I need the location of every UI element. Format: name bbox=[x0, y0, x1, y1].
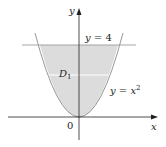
label-parabola: y = x2 bbox=[109, 84, 141, 96]
origin-label: 0 bbox=[67, 120, 73, 131]
label-y-equals-4: y = 4 bbox=[84, 32, 112, 43]
y-axis-label: y bbox=[68, 5, 75, 16]
y-axis-arrow-icon bbox=[77, 8, 82, 15]
x-axis-arrow-icon bbox=[151, 115, 158, 120]
region-label-sub: 1 bbox=[67, 73, 71, 81]
parabola-exponent: 2 bbox=[136, 84, 140, 92]
region-label-main: D bbox=[58, 68, 67, 79]
x-axis-label: x bbox=[151, 121, 157, 132]
region-diagram: y x 0 y = 4 D1 y = x2 bbox=[0, 0, 166, 147]
